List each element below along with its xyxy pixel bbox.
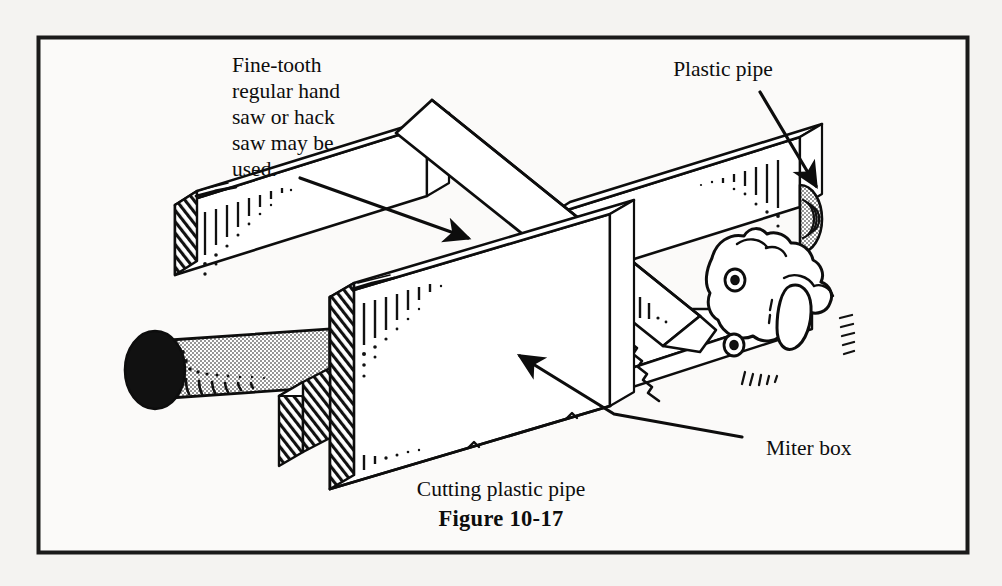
- figure-caption: Cutting plastic pipe: [417, 477, 585, 501]
- handle-bolt-upper: [725, 269, 745, 291]
- figure-page: Fine-tooth regular hand saw or hack saw …: [0, 0, 1002, 586]
- figure-number: Figure 10-17: [438, 506, 563, 531]
- label-miter-box: Miter box: [766, 436, 852, 460]
- handle-bolt-lower: [724, 334, 744, 356]
- figure-illustration: Fine-tooth regular hand saw or hack saw …: [0, 0, 1002, 586]
- miter-box-left-brace: [303, 368, 330, 452]
- label-plastic-pipe: Plastic pipe: [673, 57, 773, 81]
- pipe-end-face: [125, 331, 185, 409]
